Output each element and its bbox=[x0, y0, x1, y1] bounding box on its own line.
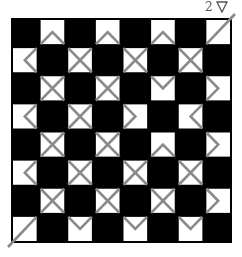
grid-cell bbox=[151, 133, 175, 157]
grid-cell bbox=[206, 133, 230, 157]
grid-cell bbox=[124, 48, 148, 72]
grid-cell bbox=[68, 48, 92, 72]
grid-cell bbox=[179, 161, 203, 185]
grid-cell bbox=[151, 20, 175, 44]
grid-cell bbox=[206, 189, 230, 213]
grid-cell bbox=[179, 217, 203, 241]
grid-cell bbox=[96, 133, 120, 157]
grid-cell bbox=[13, 48, 37, 72]
grid-cell bbox=[96, 189, 120, 213]
pattern-grid bbox=[0, 0, 242, 257]
grid-cell bbox=[41, 20, 65, 44]
grid-cell bbox=[13, 161, 37, 185]
grid-cell bbox=[124, 104, 148, 128]
grid-cell bbox=[68, 161, 92, 185]
grid-cell bbox=[151, 189, 175, 213]
grid-cell bbox=[68, 217, 92, 241]
grid-cell bbox=[68, 104, 92, 128]
grid-cell bbox=[179, 104, 203, 128]
grid-cell bbox=[41, 133, 65, 157]
grid-cell bbox=[96, 20, 120, 44]
grid-cell bbox=[206, 76, 230, 100]
grid-cell bbox=[124, 161, 148, 185]
grid-cell bbox=[13, 104, 37, 128]
grid-cell bbox=[96, 76, 120, 100]
grid-cell bbox=[41, 189, 65, 213]
grid-cell bbox=[41, 76, 65, 100]
grid-cell bbox=[179, 48, 203, 72]
grid-cell bbox=[124, 217, 148, 241]
grid-cell bbox=[151, 76, 175, 100]
